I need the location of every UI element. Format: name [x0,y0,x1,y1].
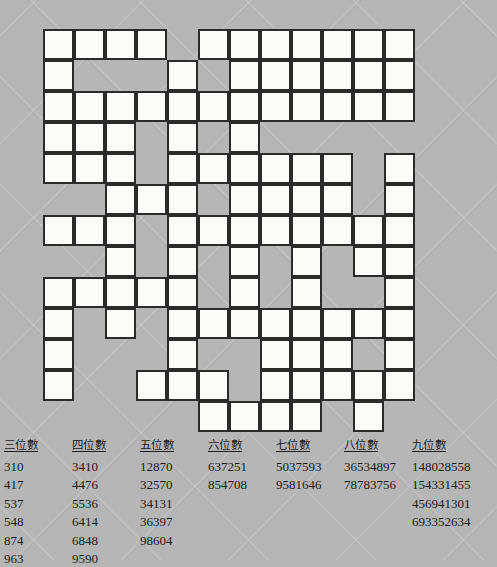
grid-cell-r12-c8[interactable] [291,401,322,432]
grid-cell-r12-c5[interactable] [198,401,229,432]
grid-cell-r9-c2[interactable] [105,308,136,339]
grid-cell-r4-c9[interactable] [322,153,353,184]
grid-cell-r0-c7[interactable] [260,29,291,60]
grid-cell-r11-c3[interactable] [136,370,167,401]
grid-cell-r11-c0[interactable] [43,370,74,401]
grid-cell-r8-c2[interactable] [105,277,136,308]
grid-cell-r2-c7[interactable] [260,91,291,122]
grid-cell-r1-c4[interactable] [167,60,198,91]
grid-cell-r3-c0[interactable] [43,122,74,153]
grid-cell-r0-c3[interactable] [136,29,167,60]
grid-cell-r6-c7[interactable] [260,215,291,246]
grid-cell-r3-c4[interactable] [167,122,198,153]
grid-cell-r7-c2[interactable] [105,246,136,277]
grid-cell-r9-c10[interactable] [353,308,384,339]
grid-cell-r10-c8[interactable] [291,339,322,370]
grid-cell-r8-c4[interactable] [167,277,198,308]
grid-cell-r1-c10[interactable] [353,60,384,91]
grid-cell-r5-c6[interactable] [229,184,260,215]
grid-cell-r1-c11[interactable] [384,60,415,91]
grid-cell-r3-c6[interactable] [229,122,260,153]
grid-cell-r11-c11[interactable] [384,370,415,401]
grid-cell-r0-c1[interactable] [74,29,105,60]
grid-cell-r4-c6[interactable] [229,153,260,184]
grid-cell-r4-c8[interactable] [291,153,322,184]
grid-cell-r12-c7[interactable] [260,401,291,432]
grid-cell-r6-c5[interactable] [198,215,229,246]
grid-cell-r5-c11[interactable] [384,184,415,215]
grid-cell-r11-c4[interactable] [167,370,198,401]
grid-cell-r11-c10[interactable] [353,370,384,401]
grid-cell-r1-c9[interactable] [322,60,353,91]
grid-cell-r7-c11[interactable] [384,246,415,277]
grid-cell-r0-c0[interactable] [43,29,74,60]
grid-cell-r4-c2[interactable] [105,153,136,184]
grid-cell-r8-c6[interactable] [229,277,260,308]
grid-cell-r9-c6[interactable] [229,308,260,339]
grid-cell-r3-c1[interactable] [74,122,105,153]
grid-cell-r6-c10[interactable] [353,215,384,246]
grid-cell-r4-c5[interactable] [198,153,229,184]
grid-cell-r5-c7[interactable] [260,184,291,215]
grid-cell-r8-c8[interactable] [291,277,322,308]
grid-cell-r9-c4[interactable] [167,308,198,339]
grid-cell-r11-c5[interactable] [198,370,229,401]
grid-cell-r7-c10[interactable] [353,246,384,277]
grid-cell-r6-c6[interactable] [229,215,260,246]
grid-cell-r0-c5[interactable] [198,29,229,60]
grid-cell-r2-c6[interactable] [229,91,260,122]
grid-cell-r5-c3[interactable] [136,184,167,215]
grid-cell-r0-c11[interactable] [384,29,415,60]
grid-cell-r3-c2[interactable] [105,122,136,153]
grid-cell-r9-c9[interactable] [322,308,353,339]
grid-cell-r10-c11[interactable] [384,339,415,370]
grid-cell-r6-c1[interactable] [74,215,105,246]
grid-cell-r8-c0[interactable] [43,277,74,308]
grid-cell-r11-c9[interactable] [322,370,353,401]
grid-cell-r6-c9[interactable] [322,215,353,246]
grid-cell-r4-c1[interactable] [74,153,105,184]
grid-cell-r9-c0[interactable] [43,308,74,339]
grid-cell-r10-c7[interactable] [260,339,291,370]
grid-cell-r6-c11[interactable] [384,215,415,246]
grid-cell-r9-c7[interactable] [260,308,291,339]
grid-cell-r5-c9[interactable] [322,184,353,215]
grid-cell-r2-c2[interactable] [105,91,136,122]
grid-cell-r8-c3[interactable] [136,277,167,308]
grid-cell-r7-c8[interactable] [291,246,322,277]
grid-cell-r8-c1[interactable] [74,277,105,308]
grid-cell-r7-c6[interactable] [229,246,260,277]
grid-cell-r0-c2[interactable] [105,29,136,60]
grid-cell-r2-c10[interactable] [353,91,384,122]
grid-cell-r11-c8[interactable] [291,370,322,401]
grid-cell-r4-c7[interactable] [260,153,291,184]
grid-cell-r10-c0[interactable] [43,339,74,370]
grid-cell-r6-c4[interactable] [167,215,198,246]
grid-cell-r2-c0[interactable] [43,91,74,122]
grid-cell-r2-c5[interactable] [198,91,229,122]
grid-cell-r6-c2[interactable] [105,215,136,246]
grid-cell-r0-c10[interactable] [353,29,384,60]
grid-cell-r0-c6[interactable] [229,29,260,60]
grid-cell-r9-c11[interactable] [384,308,415,339]
grid-cell-r0-c9[interactable] [322,29,353,60]
grid-cell-r5-c2[interactable] [105,184,136,215]
grid-cell-r2-c4[interactable] [167,91,198,122]
grid-cell-r1-c6[interactable] [229,60,260,91]
grid-cell-r1-c8[interactable] [291,60,322,91]
grid-cell-r2-c1[interactable] [74,91,105,122]
grid-cell-r6-c0[interactable] [43,215,74,246]
grid-cell-r9-c8[interactable] [291,308,322,339]
grid-cell-r9-c5[interactable] [198,308,229,339]
grid-cell-r0-c8[interactable] [291,29,322,60]
grid-cell-r4-c4[interactable] [167,153,198,184]
grid-cell-r1-c0[interactable] [43,60,74,91]
grid-cell-r10-c9[interactable] [322,339,353,370]
grid-cell-r11-c7[interactable] [260,370,291,401]
grid-cell-r7-c4[interactable] [167,246,198,277]
grid-cell-r12-c10[interactable] [353,401,384,432]
grid-cell-r6-c8[interactable] [291,215,322,246]
grid-cell-r1-c7[interactable] [260,60,291,91]
grid-cell-r4-c11[interactable] [384,153,415,184]
grid-cell-r2-c8[interactable] [291,91,322,122]
